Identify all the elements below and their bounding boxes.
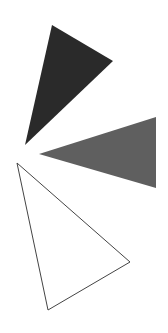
gray-triangle (39, 117, 156, 188)
dark-triangle (25, 25, 113, 145)
outline-triangle (17, 163, 130, 310)
triangles-canvas (0, 0, 168, 333)
